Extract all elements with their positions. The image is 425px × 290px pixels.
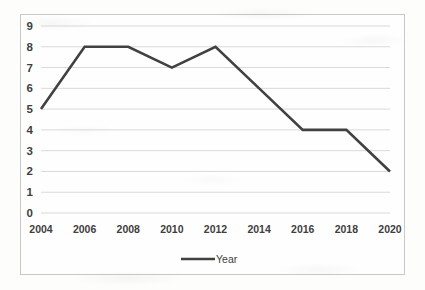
x-axis-tick-label: 2012	[204, 223, 228, 235]
x-axis-tick-label: 2014	[247, 223, 271, 235]
x-axis-tick-label: 2006	[73, 223, 97, 235]
x-axis-tick-label: 2004	[29, 223, 53, 235]
y-axis-tick-label: 7	[27, 62, 33, 74]
x-axis-tick-label: 2008	[117, 223, 141, 235]
chart-svg: 0123456789 20042006200820102012201420162…	[0, 0, 425, 290]
x-axis-tick-label: 2020	[378, 223, 402, 235]
x-axis-tick-label: 2010	[160, 223, 184, 235]
y-axis-tick-label: 5	[27, 103, 34, 115]
y-axis-tick-label: 8	[27, 41, 34, 53]
y-axis-tick-label: 1	[27, 186, 34, 198]
line-chart: 0123456789 20042006200820102012201420162…	[0, 0, 425, 290]
x-axis-tick-label: 2016	[291, 223, 315, 235]
y-axis-tick-label: 6	[27, 82, 33, 94]
y-axis-tick-label: 2	[27, 165, 33, 177]
x-axis-tick-label: 2018	[335, 223, 359, 235]
y-axis-tick-label: 4	[27, 124, 34, 136]
x-axis-tick-labels: 200420062008201020122014201620182020	[29, 223, 402, 235]
gridlines	[41, 26, 390, 213]
legend-label-year: Year	[216, 253, 238, 265]
y-axis-tick-labels: 0123456789	[27, 20, 34, 219]
y-axis-tick-label: 9	[27, 20, 33, 32]
legend: Year	[181, 253, 238, 265]
y-axis-tick-label: 3	[27, 145, 33, 157]
y-axis-tick-label: 0	[27, 207, 33, 219]
